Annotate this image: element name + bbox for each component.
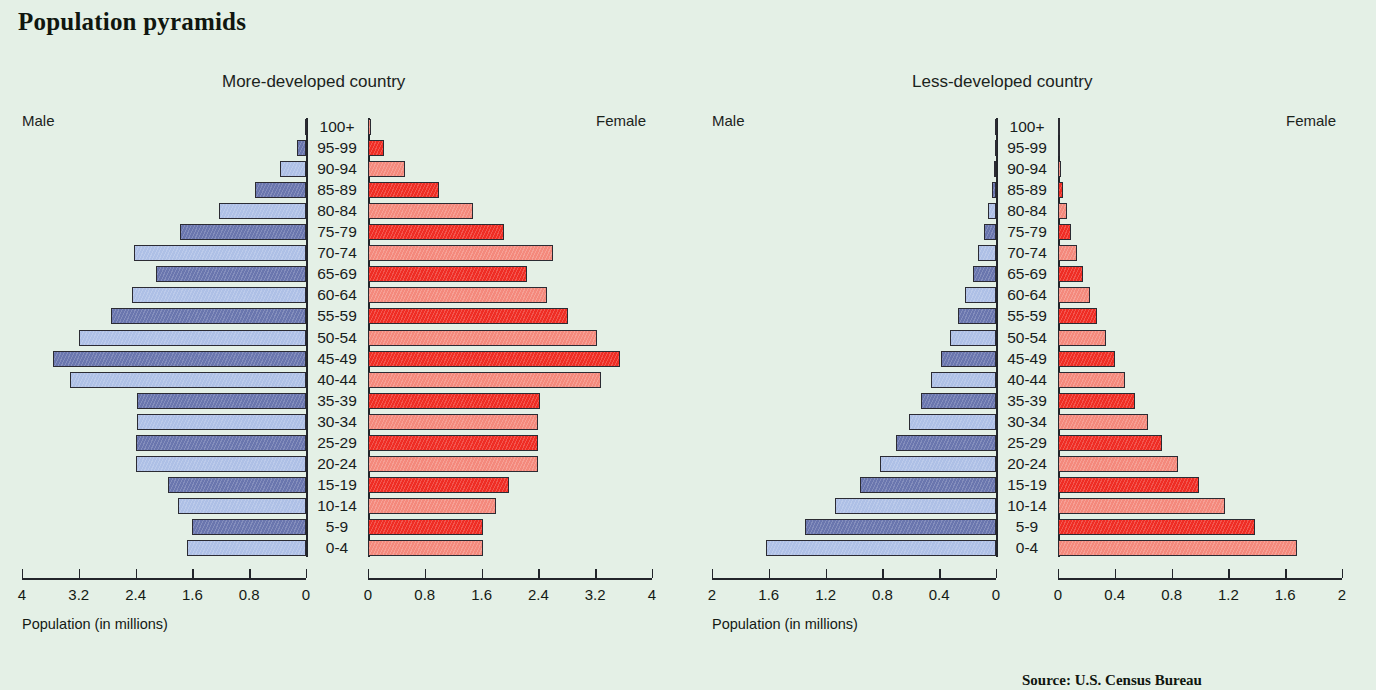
x-tick-male-1-3	[192, 569, 193, 578]
bar-female-80-84	[1058, 203, 1067, 219]
bar-female-0-4	[1058, 540, 1297, 556]
bar-male-70-74	[134, 245, 306, 261]
x-tick-female-1-2	[482, 569, 483, 578]
age-label-75-79: 75-79	[306, 224, 368, 240]
age-label-55-59: 55-59	[306, 308, 368, 324]
bar-female-55-59	[368, 308, 568, 324]
x-tick-label-female-1-2: 1.6	[462, 586, 502, 603]
age-label-75-79: 75-79	[996, 224, 1058, 240]
bar-male-5-9	[805, 519, 996, 535]
bar-male-30-34	[909, 414, 996, 430]
age-label-10-14: 10-14	[306, 498, 368, 514]
page-title: Population pyramids	[18, 8, 246, 36]
age-label-25-29: 25-29	[306, 435, 368, 451]
bar-male-60-64	[132, 287, 306, 303]
x-tick-label-female-1-5: 4	[632, 586, 672, 603]
bar-female-20-24	[1058, 456, 1178, 472]
x-tick-label-male-1-4: 0.8	[229, 586, 269, 603]
age-label-45-49: 45-49	[996, 351, 1058, 367]
x-tick-label-male-1-0: 4	[2, 586, 42, 603]
age-label-70-74: 70-74	[306, 245, 368, 261]
age-label-60-64: 60-64	[306, 287, 368, 303]
bar-female-85-89	[1058, 182, 1063, 198]
bar-male-70-74	[978, 245, 996, 261]
x-tick-label-female-2-5: 2	[1322, 586, 1362, 603]
age-label-60-64: 60-64	[996, 287, 1058, 303]
bar-male-40-44	[931, 372, 996, 388]
bar-female-40-44	[368, 372, 601, 388]
bar-female-0-4	[368, 540, 483, 556]
bar-female-40-44	[1058, 372, 1125, 388]
bar-male-45-49	[53, 351, 306, 367]
male-label-1: Male	[22, 112, 55, 129]
axis-caption-1: Population (in millions)	[22, 616, 168, 632]
age-label-65-69: 65-69	[306, 266, 368, 282]
x-tick-female-2-4	[1285, 569, 1286, 578]
x-tick-female-2-2	[1172, 569, 1173, 578]
age-label-40-44: 40-44	[996, 372, 1058, 388]
age-label-65-69: 65-69	[996, 266, 1058, 282]
x-axis-male-1	[22, 578, 306, 580]
bar-female-60-64	[368, 287, 547, 303]
age-label-80-84: 80-84	[996, 203, 1058, 219]
bar-female-35-39	[368, 393, 540, 409]
x-tick-label-female-2-2: 0.8	[1152, 586, 1192, 603]
bar-male-0-4	[187, 540, 306, 556]
chart-title-2: Less-developed country	[912, 72, 1093, 92]
bar-female-65-69	[1058, 266, 1083, 282]
bar-female-35-39	[1058, 393, 1135, 409]
bar-male-100+	[995, 119, 997, 135]
bar-female-100+	[368, 119, 371, 135]
bar-male-25-29	[896, 435, 996, 451]
x-tick-female-1-5	[652, 569, 653, 578]
bar-male-65-69	[973, 266, 996, 282]
age-label-100+: 100+	[996, 119, 1058, 135]
x-tick-label-female-1-4: 3.2	[575, 586, 615, 603]
x-tick-female-2-0	[1058, 569, 1059, 578]
bar-female-50-54	[368, 330, 597, 346]
age-label-20-24: 20-24	[996, 456, 1058, 472]
x-tick-label-male-1-1: 3.2	[59, 586, 99, 603]
male-label-2: Male	[712, 112, 745, 129]
age-label-50-54: 50-54	[996, 330, 1058, 346]
bar-male-80-84	[219, 203, 306, 219]
age-label-90-94: 90-94	[306, 161, 368, 177]
x-tick-label-male-1-3: 1.6	[172, 586, 212, 603]
bar-male-35-39	[921, 393, 996, 409]
age-label-15-19: 15-19	[306, 477, 368, 493]
bar-male-45-49	[941, 351, 996, 367]
bar-female-70-74	[368, 245, 553, 261]
x-tick-male-2-4	[939, 569, 940, 578]
x-tick-male-2-2	[826, 569, 827, 578]
age-label-25-29: 25-29	[996, 435, 1058, 451]
bar-female-70-74	[1058, 245, 1077, 261]
x-tick-label-male-2-4: 0.4	[919, 586, 959, 603]
bar-female-5-9	[1058, 519, 1255, 535]
age-label-100+: 100+	[306, 119, 368, 135]
bar-male-90-94	[280, 161, 306, 177]
x-tick-label-female-2-3: 1.2	[1208, 586, 1248, 603]
bar-female-85-89	[368, 182, 439, 198]
bar-female-95-99	[1058, 140, 1060, 156]
bar-male-80-84	[988, 203, 996, 219]
age-label-35-39: 35-39	[996, 393, 1058, 409]
x-tick-female-1-3	[538, 569, 539, 578]
bar-male-10-14	[178, 498, 306, 514]
x-tick-female-2-5	[1342, 569, 1343, 578]
x-tick-label-female-2-4: 1.6	[1265, 586, 1305, 603]
x-tick-label-female-2-0: 0	[1038, 586, 1078, 603]
bar-female-55-59	[1058, 308, 1097, 324]
age-label-80-84: 80-84	[306, 203, 368, 219]
x-tick-male-1-0	[22, 569, 23, 578]
chart-title-1: More-developed country	[222, 72, 405, 92]
x-tick-male-2-3	[882, 569, 883, 578]
bar-male-50-54	[79, 330, 306, 346]
bar-male-5-9	[192, 519, 306, 535]
age-label-70-74: 70-74	[996, 245, 1058, 261]
x-axis-female-1	[368, 578, 652, 580]
bar-male-85-89	[992, 182, 996, 198]
source-note: Source: U.S. Census Bureau	[1022, 672, 1202, 690]
x-tick-label-male-2-2: 1.2	[806, 586, 846, 603]
x-tick-label-male-2-3: 0.8	[862, 586, 902, 603]
x-tick-label-male-1-2: 2.4	[116, 586, 156, 603]
